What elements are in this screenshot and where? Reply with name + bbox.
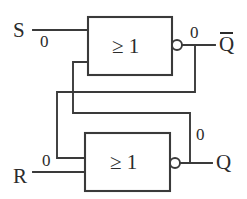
output-label-qbar-text: Q — [219, 33, 234, 55]
output-value-q: 0 — [196, 126, 205, 143]
output-label-q: Q — [216, 152, 231, 173]
input-value-s: 0 — [40, 33, 49, 50]
input-value-r: 0 — [42, 152, 51, 169]
logic-diagram-canvas: ≥ 1 ≥ 1 S 0 R 0 0 Q 0 Q — [0, 0, 247, 199]
inversion-bubble-bottom — [170, 158, 180, 168]
nor-gate-top-symbol: ≥ 1 — [112, 36, 139, 57]
inversion-bubble-top — [172, 40, 182, 50]
input-label-s: S — [13, 20, 25, 41]
output-value-qbar: 0 — [190, 24, 199, 41]
output-label-qbar: Q — [219, 33, 234, 55]
input-label-r: R — [13, 166, 27, 187]
nor-gate-bottom-symbol: ≥ 1 — [110, 152, 137, 173]
